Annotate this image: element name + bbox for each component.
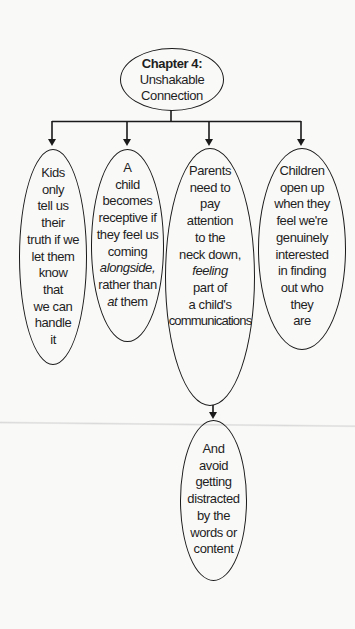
node-text-line: know [39, 265, 68, 282]
node-text-line: pay [200, 196, 220, 213]
node-text-line: neck down, [179, 247, 241, 264]
node-text-line: need to [190, 180, 231, 197]
node-child-receptive: A child becomes receptive if they feel u… [91, 149, 164, 342]
node-avoid-distraction: And avoid getting distracted by the word… [180, 420, 247, 581]
node-text-line: getting [195, 474, 231, 491]
node-text-line: Children [279, 163, 324, 180]
node-text-line: we can [34, 299, 73, 316]
root-title: Chapter 4: [142, 56, 202, 72]
node-text-line: out who [281, 280, 324, 297]
node-text-line: by the [197, 508, 230, 525]
node-text-line: handle [35, 315, 72, 332]
node-text-line: avoid [199, 458, 228, 475]
node-text-line: let them [31, 249, 74, 266]
node-text-line: they feel us [97, 227, 159, 244]
node-text-line: content [194, 541, 234, 558]
node-text-line: child [115, 177, 140, 194]
node-text-line: they [291, 297, 314, 314]
node-text-line: truth if we [27, 232, 79, 249]
node-text-line: Parents [189, 163, 231, 180]
node-text-line: it [50, 332, 56, 349]
root-subtitle-line: Connection [141, 88, 203, 104]
node-children-open-up: Children open up when they feel we're ge… [258, 148, 346, 350]
node-text-line: Kids [41, 165, 65, 182]
node-text-line: to the [195, 230, 225, 247]
node-text-line: genuinely [276, 230, 328, 247]
node-text-line: words or [190, 525, 237, 542]
node-text-line: when they [274, 196, 330, 213]
node-text-line: attention [187, 213, 233, 230]
node-text-line: And [203, 441, 225, 458]
node-parents-attention: Parents need to pay attention to the nec… [165, 148, 255, 406]
root-node-chapter-4: Chapter 4: Unshakable Connection [120, 48, 224, 111]
mind-map-diagram: Chapter 4: Unshakable Connection Kids on… [0, 0, 355, 629]
node-text-line: are [293, 313, 311, 330]
node-text-line-italic: alongside, [100, 260, 155, 277]
node-text-line: in finding [278, 263, 326, 280]
node-text-line: tell us [37, 198, 68, 215]
node-text-line: part of [193, 280, 227, 297]
node-text-line: open up [280, 180, 324, 197]
node-text-line: interested [275, 247, 328, 264]
node-kids-truth: Kids only tell us their truth if we let … [19, 149, 87, 365]
node-text-line: communications [169, 313, 252, 330]
node-text-line: that [43, 282, 63, 299]
node-text-line: a child's [189, 297, 232, 314]
node-text-line-italic: feeling [192, 263, 228, 280]
node-text-line: A [123, 160, 131, 177]
node-text-line: becomes [103, 193, 153, 210]
node-text-line-mixed: at them [107, 294, 148, 311]
node-text-line: rather than [98, 277, 156, 294]
node-text-line: only [42, 182, 64, 199]
node-text-line: feel we're [276, 213, 327, 230]
node-text-line: their [41, 215, 64, 232]
root-subtitle-line: Unshakable [140, 72, 205, 88]
node-text-line: coming [108, 244, 148, 261]
italic-fragment: at [107, 294, 117, 309]
node-text-line: receptive if [98, 210, 156, 227]
node-text-line: distracted [187, 491, 239, 508]
